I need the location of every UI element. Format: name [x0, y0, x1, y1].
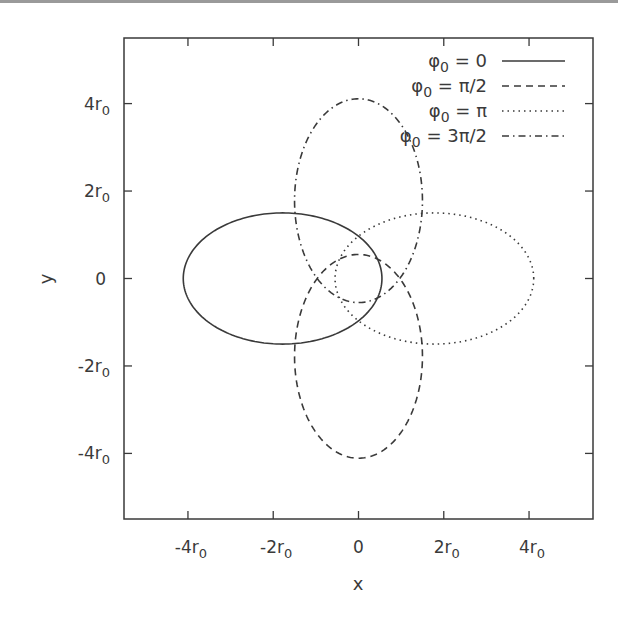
legend-label-3: φ0 = 3π/2: [400, 125, 487, 150]
y-axis-label: y: [35, 273, 56, 284]
y-tick-label: 4r0: [84, 94, 110, 118]
y-tick-label: -4r0: [78, 443, 110, 467]
y-tick-label: -2r0: [78, 356, 110, 380]
orbit-curve-0: [183, 213, 382, 344]
legend: φ0 = 0φ0 = π/2φ0 = πφ0 = 3π/2: [400, 50, 565, 150]
legend-label-0: φ0 = 0: [428, 50, 487, 75]
x-tick-label: -4r0: [175, 537, 207, 561]
orbit-curve-1: [295, 254, 423, 458]
x-tick-labels: -4r0-2r002r04r0: [175, 537, 545, 561]
legend-label-1: φ0 = π/2: [411, 75, 487, 100]
x-tick-label: 4r0: [519, 537, 545, 561]
ticks-layer: [124, 38, 593, 519]
y-tick-label: 2r0: [84, 181, 110, 205]
x-tick-label: -2r0: [260, 537, 292, 561]
x-tick-label: 0: [353, 537, 364, 557]
orbit-chart: -4r0-2r002r04r0 4r02r00-2r0-4r0 x y φ0 =…: [0, 0, 618, 625]
plot-frame: [124, 38, 593, 519]
y-tick-labels: 4r02r00-2r0-4r0: [78, 94, 110, 468]
curves-layer: [183, 99, 533, 458]
orbit-curve-2: [335, 213, 534, 344]
y-tick-label: 0: [95, 269, 106, 289]
legend-label-2: φ0 = π: [429, 100, 487, 125]
x-tick-label: 2r0: [434, 537, 460, 561]
x-axis-label: x: [353, 573, 364, 594]
